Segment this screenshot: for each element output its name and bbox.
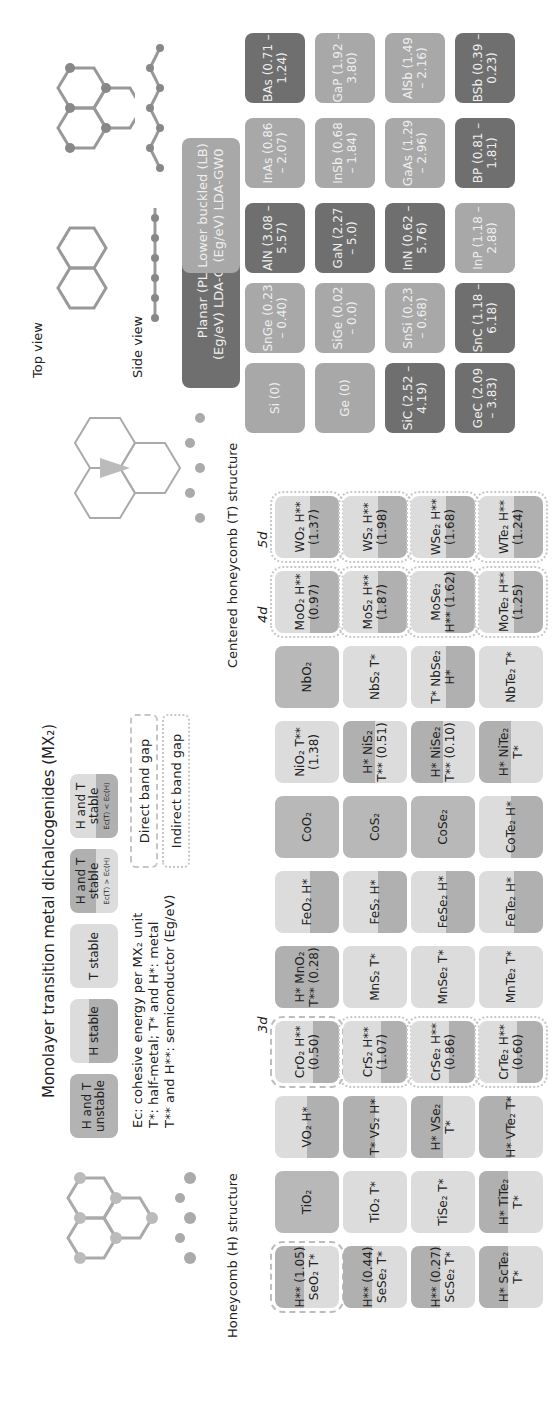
tmd-tile-label: H* VTe₂ T*: [504, 1096, 518, 1158]
group4-tile-3-2: GaAs (1.29 – 2.96): [385, 118, 445, 188]
tmd-tile-fe-se: FeSe₂ H*: [411, 871, 475, 933]
legend-ht-stable-1: H and T stableEc(T) > Ec(H): [70, 849, 118, 913]
tmd-tile-mo-se: MoSe₂ H** (1.62): [411, 571, 475, 633]
tmd-tile-mo-s: MoS₂ H** (1.87): [343, 571, 407, 633]
tmd-tile-mn-se: MnSe₂ T*: [411, 946, 475, 1008]
tmd-tile-mn-o: H* MnO₂ T** (0.28): [275, 946, 339, 1008]
tmd-tile-v-s: T* VS₂ H*: [343, 1096, 407, 1158]
tmd-tile-label: H** (1.05) SeO₂ T*: [293, 1246, 321, 1308]
tmd-tile-ti-se: TiSe₂ T*: [411, 1171, 475, 1233]
figure-title: Monolayer transition metal dichalcogenid…: [40, 724, 58, 1098]
tmd-tile-label: WTe₂ H** (1.24): [497, 496, 525, 558]
tmd-tile-label: FeO₂ H*: [300, 879, 314, 926]
tmd-tile-label: MoS₂ H** (1.87): [361, 571, 389, 633]
period-5d-label: 5d: [255, 531, 270, 548]
tmd-tile-label: MoO₂ H** (0.97): [293, 571, 321, 633]
tmd-tile-cr-te: CrTe₂ H** (0.60): [479, 1021, 543, 1083]
tmd-tile-nb-s: NbS₂ T*: [343, 646, 407, 708]
tmd-tile-label: NbTe₂ T*: [504, 651, 518, 702]
tmd-tile-label: CrO₂ H** (0.50): [293, 1021, 321, 1083]
tmd-tile-co-o: CoO₂: [275, 796, 339, 858]
top-view-label: Top view: [30, 322, 45, 378]
tmd-tile-mn-s: MnS₂ T*: [343, 946, 407, 1008]
tmd-tile-mo-o: MoO₂ H** (0.97): [275, 571, 339, 633]
tmd-tile-label: FeS₂ H*: [368, 880, 382, 925]
honeycomb-h-structure-icon: [30, 1168, 220, 1288]
tmd-tile-fe-te: FeTe₂ H*: [479, 871, 543, 933]
tmd-tile-label: H* NiS₂ T** (0.51): [361, 721, 389, 783]
group4-tile-2-3: InP (1.18 – 2.88): [455, 203, 515, 273]
tmd-tile-w-te: WTe₂ H** (1.24): [479, 496, 543, 558]
tmd-tile-label: MoTe₂ H** (1.25): [497, 571, 525, 633]
legend-unstable: H and T unstable: [70, 1074, 118, 1138]
tmd-tile-label: CrS₂ H** (1.07): [361, 1021, 389, 1083]
tmd-tile-nb-te: NbTe₂ T*: [479, 646, 543, 708]
tmd-tile-mo-te: MoTe₂ H** (1.25): [479, 571, 543, 633]
tmd-tile-sc-o: H** (1.05) SeO₂ T*: [275, 1246, 339, 1308]
group4-tile-0-0: Si (0): [245, 363, 305, 433]
group4-tile-2-0: AlN (3.08 – 5.57): [245, 203, 305, 273]
tmd-tile-fe-o: FeO₂ H*: [275, 871, 339, 933]
tmd-tile-label: NbO₂: [300, 662, 314, 693]
tmd-tile-label: H* TiTe₂ T*: [497, 1171, 525, 1233]
centered-honeycomb-t-structure-icon: [30, 408, 220, 538]
tmd-tile-label: T* NbSe₂ H*: [429, 646, 457, 708]
tmd-tile-fe-s: FeS₂ H*: [343, 871, 407, 933]
group4-tile-3-3: BP (0.81 – 1.81): [455, 118, 515, 188]
tmd-tile-label: CoO₂: [300, 812, 314, 842]
tmd-tile-label: TiO₂: [300, 1190, 314, 1215]
tmd-tile-v-o: VO₂ H*: [275, 1096, 339, 1158]
t-structure-label: Centered honeycomb (T) structure: [225, 443, 240, 668]
honeycomb-top-view-icon: [40, 18, 135, 328]
tmd-tile-label: MoSe₂ H** (1.62): [429, 571, 457, 633]
tmd-tile-w-s: WS₂ H** (1.98): [343, 496, 407, 558]
tmd-tile-label: TiO₂ T*: [368, 1181, 382, 1223]
tmd-tile-label: H** (0.27) ScSe₂ T*: [429, 1246, 457, 1308]
tmd-tile-w-o: WO₂ H** (1.37): [275, 496, 339, 558]
tmd-tile-ti-te: H* TiTe₂ T*: [479, 1171, 543, 1233]
group4-tile-2-1: GaN (2.27 – 5.0): [315, 203, 375, 273]
tmd-tile-w-se: WSe₂ H** (1.68): [411, 496, 475, 558]
tmd-tile-label: NbS₂ T*: [368, 654, 382, 700]
group4-tile-4-3: BSb (0.39 – 0.23): [455, 33, 515, 103]
tmd-tile-ni-o: NiO₂ T** (1.38): [275, 721, 339, 783]
tmd-tile-ti-o: TiO₂: [275, 1171, 339, 1233]
tmd-tile-co-te: CoTe₂ H*: [479, 796, 543, 858]
group4-tile-3-1: InSb (0.68 – 1.84): [315, 118, 375, 188]
group4-tile-1-2: SnSi (0.23 – 0.68): [385, 283, 445, 353]
tmd-tile-sc-se: H** (0.27) ScSe₂ T*: [411, 1246, 475, 1308]
tmd-tile-cr-se: CrSe₂ H** (0.86): [411, 1021, 475, 1083]
group4-tile-4-2: AlSb (1.49 – 2.16): [385, 33, 445, 103]
group4-tile-0-3: GeC (2.09 – 3.83): [455, 363, 515, 433]
tmd-tile-nb-se: T* NbSe₂ H*: [411, 646, 475, 708]
period-4d-label: 4d: [255, 606, 270, 623]
tmd-tile-nb-o: NbO₂: [275, 646, 339, 708]
tmd-tile-label: CoTe₂ H*: [504, 801, 518, 853]
tmd-tile-label: WSe₂ H** (1.68): [429, 496, 457, 558]
tmd-tile-label: WO₂ H** (1.37): [293, 496, 321, 558]
tmd-tile-ni-te: H* NiTe₂ T*: [479, 721, 543, 783]
tmd-tile-label: MnTe₂ T*: [504, 951, 518, 1004]
tmd-tile-label: WS₂ H** (1.98): [361, 496, 389, 558]
legend-ht-stable-2: H and T stableEc(T) < Ec(H): [70, 774, 118, 838]
group4-tile-1-3: SnC (1.18 – 6.18): [455, 283, 515, 353]
period-3d-label: 3d: [255, 1016, 270, 1033]
tmd-tile-v-te: H* VTe₂ T*: [479, 1096, 543, 1158]
tmd-tile-co-s: CoS₂: [343, 796, 407, 858]
tmd-tile-label: MnS₂ T*: [368, 953, 382, 1001]
tmd-tile-label: T* VS₂ H*: [368, 1099, 382, 1156]
tmd-tile-label: H* NiSe₂ T** (0.10): [429, 721, 457, 783]
buckled-header: Lower buckled (LB)(Eg/eV) LDA-GW0: [182, 138, 240, 273]
legend-notes: Ec: cohesive energy per MX₂ unit T*: hal…: [130, 895, 178, 1128]
side-view-chain-icon: [140, 18, 170, 328]
tmd-tile-ti-s: TiO₂ T*: [343, 1171, 407, 1233]
tmd-tile-label: VO₂ H*: [300, 1106, 314, 1147]
tmd-tile-ni-se: H* NiSe₂ T** (0.10): [411, 721, 475, 783]
tmd-tile-label: H* NiTe₂ T*: [497, 721, 525, 783]
tmd-tile-label: H* MnO₂ T** (0.28): [293, 946, 321, 1008]
group4-tile-4-0: BAs (0.71 – 1.24): [245, 33, 305, 103]
tmd-tile-label: MnSe₂ T*: [436, 950, 450, 1005]
tmd-tile-label: FeTe₂ H*: [504, 877, 518, 927]
figure-canvas: Monolayer transition metal dichalcogenid…: [0, 0, 553, 1428]
legend-indirect-gap: Indirect band gap: [162, 714, 190, 868]
